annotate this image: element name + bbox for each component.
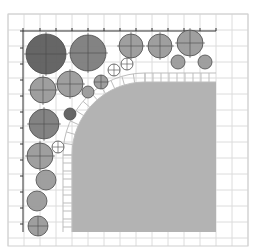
plant-canopy — [36, 170, 56, 190]
small-shrub-symbol — [121, 58, 133, 70]
shrub-symbol — [25, 141, 55, 171]
shrub-symbol — [198, 55, 212, 69]
paver-joint — [83, 101, 90, 107]
small-shrub-symbol — [52, 141, 64, 153]
plant-canopy — [64, 108, 76, 120]
shrub-symbol — [27, 191, 47, 211]
shrub-symbol — [171, 55, 185, 69]
planting-plan — [0, 0, 253, 250]
shrub-symbol — [36, 170, 56, 190]
tree-symbol — [68, 33, 108, 73]
paver-joint — [66, 132, 75, 135]
shrub-symbol — [64, 108, 76, 120]
plant-canopy — [82, 86, 94, 98]
paver-joint — [76, 111, 84, 116]
paver-joint — [133, 74, 134, 83]
paver-joint — [64, 143, 73, 144]
shrub-symbol — [82, 86, 94, 98]
plant-canopy — [198, 55, 212, 69]
lawn-area — [72, 82, 216, 232]
shrub-symbol — [117, 32, 145, 60]
shrub-symbol — [28, 216, 48, 236]
small-shrub-symbol — [108, 64, 120, 76]
paver-joint — [111, 80, 115, 88]
shrub-symbol — [28, 75, 58, 105]
tree-symbol — [24, 32, 68, 76]
shrub-symbol — [146, 32, 174, 60]
plant-canopy — [171, 55, 185, 69]
plant-canopy — [27, 191, 47, 211]
shrub-symbol — [94, 75, 108, 89]
